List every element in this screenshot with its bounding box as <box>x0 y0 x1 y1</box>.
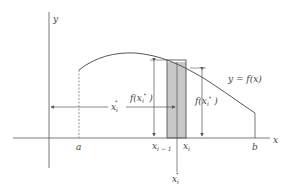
riemann-diagram: y x y = f(x) a b xi − 1 xi xi* f(xi* ) f… <box>0 0 290 196</box>
f-xstar-left-label: f(xi* ) <box>129 92 153 104</box>
x-star-label: xi* <box>172 171 179 185</box>
curve-label: y = f(x) <box>227 74 262 84</box>
x-i-label: xi <box>183 141 190 152</box>
x-axis-label: x <box>273 135 278 145</box>
x-i-minus-1-label: xi − 1 <box>152 141 172 152</box>
f-xstar-right-label: f(xi* ) <box>194 95 218 107</box>
x-star-arrow-label: xi* <box>111 99 118 113</box>
y-axis-label: y <box>52 14 59 24</box>
a-label: a <box>76 142 81 152</box>
b-label: b <box>252 142 258 152</box>
shaded-rectangle <box>167 62 186 138</box>
